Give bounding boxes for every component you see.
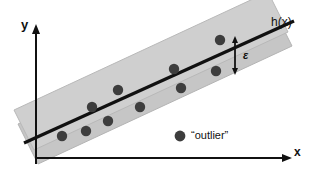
data-point bbox=[169, 64, 179, 74]
data-point bbox=[176, 83, 186, 93]
hypothesis-label: h(x) bbox=[271, 16, 292, 28]
data-point bbox=[135, 102, 145, 112]
y-axis-label: y bbox=[21, 18, 28, 31]
data-point bbox=[103, 116, 113, 126]
figure-canvas bbox=[0, 0, 312, 180]
hypothesis-line bbox=[24, 21, 294, 143]
epsilon-label: ε bbox=[243, 50, 248, 61]
data-point bbox=[87, 102, 97, 112]
data-point bbox=[57, 131, 67, 141]
data-point bbox=[215, 35, 225, 45]
data-point bbox=[113, 85, 123, 95]
regression-tube-figure: y x h(x) ε “outlier” bbox=[0, 0, 312, 180]
epsilon-tube-band bbox=[14, 0, 292, 164]
outlier-point bbox=[175, 131, 186, 142]
x-axis-label: x bbox=[294, 146, 301, 158]
y-axis-arrowhead bbox=[32, 24, 40, 34]
x-axis-arrowhead bbox=[282, 154, 292, 162]
outlier-label: “outlier” bbox=[191, 130, 228, 141]
data-point bbox=[211, 66, 221, 76]
data-point bbox=[81, 126, 91, 136]
